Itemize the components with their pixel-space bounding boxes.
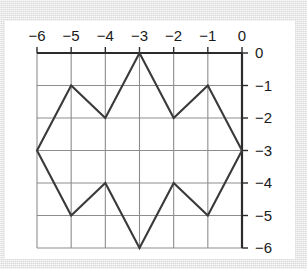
y-tick-label: −2	[255, 109, 272, 126]
x-tick-labels: −6−5−4−3−2−10	[28, 27, 246, 44]
y-tick-label: −5	[255, 207, 272, 224]
x-tick-label: −3	[131, 27, 148, 44]
x-tick-label: −1	[199, 27, 216, 44]
grid-lines	[37, 53, 242, 248]
y-tick-label: 0	[255, 44, 263, 61]
tick-marks	[37, 47, 248, 248]
x-tick-label: −6	[28, 27, 45, 44]
figure-card: −6−5−4−3−2−10 0−1−2−3−4−5−6	[5, 21, 295, 259]
y-tick-labels: 0−1−2−3−4−5−6	[255, 44, 272, 256]
y-tick-label: −6	[255, 239, 272, 256]
y-tick-label: −4	[255, 174, 272, 191]
coordinate-grid-plot: −6−5−4−3−2−10 0−1−2−3−4−5−6	[5, 21, 295, 259]
y-tick-label: −3	[255, 142, 272, 159]
x-tick-label: −4	[97, 27, 114, 44]
x-tick-label: −5	[63, 27, 80, 44]
y-tick-label: −1	[255, 77, 272, 94]
x-tick-label: −2	[165, 27, 182, 44]
x-tick-label: 0	[238, 27, 246, 44]
